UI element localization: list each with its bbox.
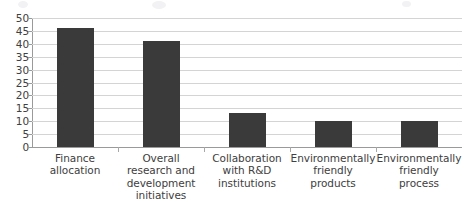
category-label-line: with R&D [204,164,290,176]
bar [401,121,438,147]
bar-chart: 05101520253035404550 FinanceallocationOv… [0,0,472,202]
gridline-20 [32,95,462,96]
plot-area [32,18,462,147]
category-label-line: Environmentally [376,152,462,164]
y-tick-label: 0 [5,142,29,153]
category-label-line: development [118,177,204,189]
y-tick-mark [28,57,32,58]
y-tick-label: 35 [5,52,29,63]
bar [143,41,180,147]
y-tick-label: 45 [5,26,29,37]
y-tick-mark [28,83,32,84]
category-label-line: allocation [32,164,118,176]
y-tick-label: 25 [5,78,29,89]
category-label: Overallresearch anddevelopmentinitiative… [118,152,204,202]
category-label-line: process [376,177,462,189]
category-label-line: Collaboration [204,152,290,164]
y-axis-tick-labels: 05101520253035404550 [0,0,29,202]
category-label-line: friendly [290,164,376,176]
y-tick-label: 5 [5,129,29,140]
category-label-line: initiatives [118,189,204,201]
y-tick-label: 20 [5,90,29,101]
category-label-line: Finance [32,152,118,164]
category-label: Environmentallyfriendlyprocess [376,152,462,189]
y-tick-label: 10 [5,116,29,127]
bar [57,28,94,147]
y-tick-label: 15 [5,103,29,114]
category-label-line: institutions [204,177,290,189]
gridline-35 [32,57,462,58]
gridline-30 [32,70,462,71]
gridline-25 [32,83,462,84]
y-tick-label: 40 [5,39,29,50]
category-label: Collaborationwith R&Dinstitutions [204,152,290,189]
y-tick-mark [28,95,32,96]
gridline-0 [32,147,462,148]
gridline-45 [32,31,462,32]
y-tick-mark [28,44,32,45]
y-tick-mark [28,31,32,32]
bar [315,121,352,147]
category-label-line: friendly [376,164,462,176]
scan-artifact [402,1,411,7]
category-label-line: Overall [118,152,204,164]
y-tick-mark [28,121,32,122]
category-label-line: research and [118,164,204,176]
x-axis-category-labels: FinanceallocationOverallresearch anddeve… [32,152,462,202]
bar [229,113,266,147]
category-label: Environmentallyfriendlyproducts [290,152,376,189]
gridline-15 [32,108,462,109]
y-tick-mark [28,108,32,109]
category-label-line: products [290,177,376,189]
y-tick-mark [28,134,32,135]
y-tick-mark [28,18,32,19]
y-tick-label: 50 [5,13,29,24]
gridline-40 [32,44,462,45]
category-label-line: Environmentally [290,152,376,164]
y-tick-mark [28,147,32,148]
scan-artifact [152,1,166,9]
y-tick-mark [28,70,32,71]
category-label: Financeallocation [32,152,118,177]
y-tick-label: 30 [5,65,29,76]
gridline-50 [32,18,462,19]
